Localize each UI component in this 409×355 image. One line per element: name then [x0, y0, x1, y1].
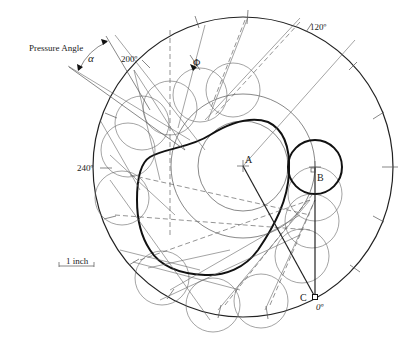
deg-200-label: 200º	[121, 54, 138, 64]
deg-240-label: 240º	[77, 163, 94, 173]
deg-120-label: 120º	[310, 22, 327, 32]
deg-0-label: 0º	[316, 302, 324, 312]
cam-layout-diagram: Pressure Angle α Φ 200º 120º 240º 0º A B…	[0, 0, 409, 355]
line-a-c	[243, 166, 315, 297]
point-b-label: B	[317, 172, 324, 183]
point-c-marker	[313, 295, 318, 300]
alpha-arrow-bottom-icon	[77, 64, 83, 71]
point-c-label: C	[300, 292, 307, 303]
phi-label: Φ	[193, 57, 200, 68]
point-a-label: A	[245, 154, 253, 165]
scale-label: 1 inch	[66, 256, 89, 266]
pressure-angle-label: Pressure Angle	[29, 43, 83, 53]
alpha-label: α	[88, 52, 94, 64]
